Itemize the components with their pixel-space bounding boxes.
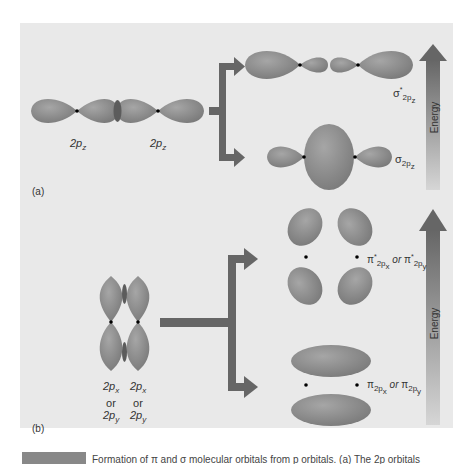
label-sigma: σ2pz (395, 153, 415, 173)
caption-figure-tag (22, 452, 86, 464)
panel-b-letter: (b) (32, 423, 44, 434)
panel-a-letter: (a) (32, 186, 44, 197)
energy-label-b: Energy (429, 304, 440, 344)
label-left-2px-or-2py: 2px or 2py (102, 380, 120, 426)
figure-caption: Formation of π and σ molecular orbitals … (92, 449, 470, 464)
label-right-2px-or-2py: 2px or 2py (129, 380, 147, 426)
panel-b-split-arrow (160, 248, 258, 398)
energy-label-a: Energy (429, 98, 440, 138)
pi-orbital (291, 345, 371, 426)
label-2pz-right: 2pz (150, 137, 166, 154)
sigma-star-orbital (245, 51, 413, 79)
panel-a-left-orbitals (31, 99, 204, 123)
label-pi: π2px or π2py (367, 379, 421, 398)
panel-b-left-orbitals (100, 276, 150, 371)
label-2pz-left: 2pz (70, 137, 86, 154)
pi-star-orbital (280, 201, 379, 311)
label-sigma-star: σ*2pz (393, 84, 415, 106)
label-pi-star: π*2px or π*2py (367, 251, 427, 273)
sigma-orbital (267, 124, 392, 190)
panel-a-split-arrow (209, 57, 245, 167)
